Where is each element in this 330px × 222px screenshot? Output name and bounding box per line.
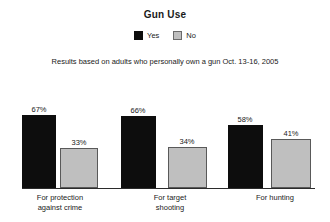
x-axis-line xyxy=(22,188,315,189)
bar-value-protection-yes: 67% xyxy=(19,105,59,114)
chart-subtitle: Results based on adults who personally o… xyxy=(0,57,330,67)
bar-value-hunting-no: 41% xyxy=(271,129,311,138)
chart-legend: Yes No xyxy=(0,31,330,40)
category-label-target-shooting: For target shooting xyxy=(115,193,225,212)
bar-protection-no xyxy=(60,148,98,188)
bar-value-hunting-yes: 58% xyxy=(225,115,265,124)
legend-item-no: No xyxy=(173,31,196,40)
bar-hunting-no xyxy=(271,139,311,188)
category-label-hunting: For hunting xyxy=(220,193,330,203)
plot-area: 67% 33% 66% 34% 58% 41% xyxy=(22,84,315,188)
legend-item-yes: Yes xyxy=(134,31,159,40)
legend-label-no: No xyxy=(186,31,196,40)
bar-group-target-shooting: 66% 34% xyxy=(121,84,199,188)
gray-square-icon xyxy=(173,31,182,40)
bar-value-protection-no: 33% xyxy=(59,138,99,147)
legend-label-yes: Yes xyxy=(147,31,159,40)
bar-group-protection: 67% 33% xyxy=(22,84,98,188)
bar-value-target-shooting-no: 34% xyxy=(167,137,207,146)
bar-target-shooting-yes xyxy=(121,116,156,188)
chart-title: Gun Use xyxy=(0,9,330,21)
black-square-icon xyxy=(134,31,143,40)
bar-protection-yes xyxy=(22,115,56,188)
category-label-protection: For protection against crime xyxy=(5,193,115,212)
bar-value-target-shooting-yes: 66% xyxy=(118,106,158,115)
bar-hunting-yes xyxy=(228,125,263,188)
bar-target-shooting-no xyxy=(168,147,207,188)
gun-use-bar-chart: Gun Use Yes No Results based on adults w… xyxy=(0,0,330,222)
bar-group-hunting: 58% 41% xyxy=(228,84,316,188)
